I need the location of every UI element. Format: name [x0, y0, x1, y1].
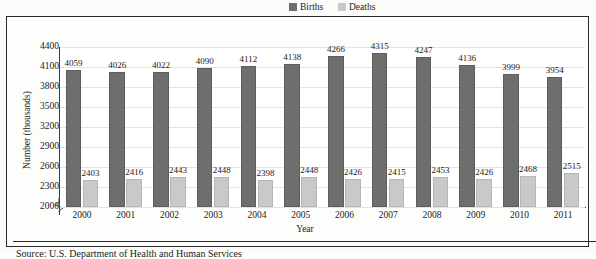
bar-label-births-2002: 4022 — [152, 60, 170, 70]
x-axis-tick-label-2011: 2011 — [554, 210, 573, 220]
y-axis-tick-label: 2600 — [25, 161, 59, 171]
x-axis-tick-label-2005: 2005 — [291, 210, 310, 220]
y-axis-tick-labels: 200023002600290032003500380041004400 — [15, 47, 59, 207]
x-axis-title: Year — [7, 224, 596, 234]
bar-label-births-2000: 4059 — [64, 58, 82, 68]
bar-deaths-2000 — [83, 180, 99, 207]
y-axis-tick-label: 4400 — [25, 41, 59, 51]
bar-label-deaths-2006: 2426 — [344, 167, 362, 177]
bar-label-births-2009: 4136 — [458, 53, 476, 63]
bar-deaths-2011 — [564, 173, 580, 207]
bar-births-2000 — [66, 70, 82, 207]
bar-label-deaths-2000: 2403 — [81, 168, 99, 178]
bar-births-2002 — [153, 72, 169, 207]
legend-swatch-deaths-icon — [338, 3, 346, 11]
x-axis-tick-label-2002: 2002 — [160, 210, 179, 220]
legend-item-deaths: Deaths — [338, 2, 375, 12]
plot-area: 4059240340262416402224434090244841122398… — [60, 47, 585, 207]
bar-deaths-2005 — [301, 177, 317, 207]
bar-births-2007 — [372, 53, 388, 207]
bar-label-deaths-2001: 2416 — [125, 167, 143, 177]
y-axis-tick-label: 3800 — [25, 81, 59, 91]
bar-deaths-2006 — [345, 179, 361, 207]
x-axis-tick-label-2004: 2004 — [247, 210, 266, 220]
bar-births-2004 — [241, 66, 257, 207]
bar-label-births-2007: 4315 — [371, 41, 389, 51]
x-axis-tick-label-2006: 2006 — [335, 210, 354, 220]
legend-label-births: Births — [300, 2, 323, 12]
chart-legend: Births Deaths — [0, 0, 596, 16]
bar-label-deaths-2009: 2426 — [475, 167, 493, 177]
bar-label-births-2001: 4026 — [108, 60, 126, 70]
bar-births-2001 — [109, 72, 125, 207]
x-axis-tick-label-2001: 2001 — [116, 210, 135, 220]
bar-deaths-2004 — [258, 180, 274, 207]
bar-label-deaths-2003: 2448 — [213, 165, 231, 175]
chart-frame: Number (thousands) 200023002600290032003… — [6, 16, 589, 247]
bar-label-deaths-2008: 2453 — [431, 165, 449, 175]
bar-deaths-2003 — [214, 177, 230, 207]
bar-label-deaths-2002: 2443 — [169, 165, 187, 175]
gridline — [60, 207, 585, 208]
y-axis-tick-label: 4100 — [25, 61, 59, 71]
bar-births-2008 — [416, 57, 432, 207]
gridline — [60, 47, 585, 48]
x-axis-tick-label-2008: 2008 — [422, 210, 441, 220]
bar-births-2009 — [459, 65, 475, 207]
legend-label-deaths: Deaths — [349, 2, 375, 12]
y-axis-tick-label: 3500 — [25, 101, 59, 111]
x-axis-tick-label-2007: 2007 — [379, 210, 398, 220]
y-axis-tick-label: 2300 — [25, 181, 59, 191]
bar-deaths-2002 — [170, 177, 186, 207]
x-axis-tick-label-2009: 2009 — [466, 210, 485, 220]
bar-deaths-2001 — [126, 179, 142, 207]
bar-label-births-2011: 3954 — [546, 65, 564, 75]
x-axis-tick-label-2003: 2003 — [204, 210, 223, 220]
source-note: Source: U.S. Department of Health and Hu… — [16, 248, 242, 259]
bar-deaths-2010 — [520, 176, 536, 207]
bar-deaths-2009 — [476, 179, 492, 207]
legend-swatch-births-icon — [289, 3, 297, 11]
source-divider — [13, 241, 596, 242]
bar-deaths-2008 — [433, 177, 449, 207]
bar-label-births-2008: 4247 — [414, 45, 432, 55]
legend-item-births: Births — [289, 2, 323, 12]
bar-deaths-2007 — [389, 179, 405, 207]
x-axis-tick-label-2000: 2000 — [72, 210, 91, 220]
bar-label-deaths-2004: 2398 — [256, 168, 274, 178]
bar-label-births-2005: 4138 — [283, 52, 301, 62]
bar-label-births-2003: 4090 — [196, 56, 214, 66]
bar-label-births-2010: 3999 — [502, 62, 520, 72]
bar-births-2003 — [197, 68, 213, 207]
bar-births-2006 — [328, 56, 344, 207]
bar-label-births-2004: 4112 — [240, 54, 258, 64]
bar-births-2010 — [503, 74, 519, 207]
y-axis-tick-label: 3200 — [25, 121, 59, 131]
bar-births-2011 — [547, 77, 563, 207]
bar-label-deaths-2007: 2415 — [388, 167, 406, 177]
bar-label-births-2006: 4266 — [327, 44, 345, 54]
bar-births-2005 — [284, 64, 300, 207]
bar-label-deaths-2011: 2515 — [563, 161, 581, 171]
bar-label-deaths-2005: 2448 — [300, 165, 318, 175]
x-axis-tick-label-2010: 2010 — [510, 210, 529, 220]
y-axis-tick-label: 2900 — [25, 141, 59, 151]
bar-label-deaths-2010: 2468 — [519, 164, 537, 174]
